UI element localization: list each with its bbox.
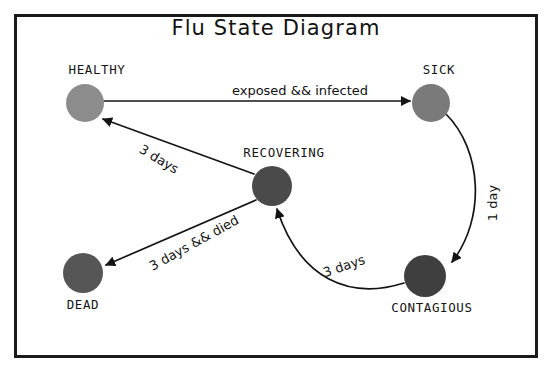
node-contagious[interactable] <box>404 255 446 297</box>
node-dead[interactable] <box>63 253 103 293</box>
edge-label-sick-to-contagious: 1 day <box>485 185 500 221</box>
node-sick[interactable] <box>412 84 450 122</box>
edge-contagious-to-recovering <box>277 209 404 289</box>
edge-label-healthy-to-sick: exposed && infected <box>232 83 368 98</box>
node-recovering[interactable] <box>252 166 292 206</box>
diagram-canvas: Flu State Diagram HEALTHY SICK RECOVERIN… <box>0 0 552 371</box>
node-label-sick: SICK <box>423 62 456 77</box>
node-label-dead: DEAD <box>67 297 100 312</box>
edge-sick-to-contagious <box>446 114 475 262</box>
state-graph <box>0 0 552 371</box>
node-label-recovering: RECOVERING <box>243 145 324 160</box>
node-healthy[interactable] <box>66 84 104 122</box>
node-label-contagious: CONTAGIOUS <box>391 300 472 315</box>
node-label-healthy: HEALTHY <box>69 62 126 77</box>
